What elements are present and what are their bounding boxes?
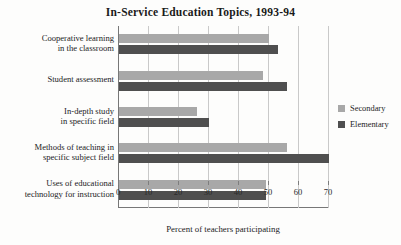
x-tick-mark — [118, 181, 119, 185]
x-tick-label: 10 — [144, 187, 153, 197]
legend-item: Elementary — [338, 120, 389, 129]
x-tick-mark — [268, 181, 269, 185]
bar-secondary — [119, 180, 266, 189]
x-tick-mark — [298, 181, 299, 185]
x-axis-title: Percent of teachers participating — [118, 224, 328, 234]
x-tick-label: 70 — [324, 187, 333, 197]
x-tick-mark — [238, 181, 239, 185]
bar-elementary — [119, 154, 329, 163]
chart-figure: In-Service Education Topics, 1993-94 Coo… — [0, 0, 401, 245]
category-label: Student assessment — [2, 74, 114, 85]
bar-elementary — [119, 45, 278, 54]
category-axis-labels: Cooperative learning in the classroomStu… — [0, 26, 114, 208]
chart-legend: SecondaryElementary — [338, 104, 389, 136]
x-tick-label: 30 — [204, 187, 213, 197]
x-tick-label: 60 — [294, 187, 303, 197]
category-label: In-depth study in specific field — [2, 106, 114, 127]
x-tick-mark — [328, 181, 329, 185]
legend-label: Secondary — [350, 104, 385, 113]
x-tick-label: 40 — [234, 187, 243, 197]
plot-area — [118, 26, 328, 208]
bar-elementary — [119, 82, 287, 91]
x-tick-label: 0 — [116, 187, 120, 197]
category-label: Uses of educational technology for instr… — [2, 178, 114, 199]
x-tick-label: 50 — [264, 187, 273, 197]
bar-secondary — [119, 71, 263, 80]
bar-secondary — [119, 107, 197, 116]
x-tick-mark — [148, 181, 149, 185]
x-tick-mark — [178, 181, 179, 185]
bar-secondary — [119, 34, 269, 43]
x-tick-mark — [208, 181, 209, 185]
chart-title: In-Service Education Topics, 1993-94 — [0, 6, 401, 18]
bar-elementary — [119, 118, 209, 127]
bar-elementary — [119, 191, 266, 200]
legend-item: Secondary — [338, 104, 389, 113]
category-label: Cooperative learning in the classroom — [2, 33, 114, 54]
bar-secondary — [119, 143, 287, 152]
legend-label: Elementary — [350, 120, 389, 129]
x-axis-line — [118, 207, 328, 208]
x-tick-label: 20 — [174, 187, 183, 197]
category-label: Methods of teaching in specific subject … — [2, 142, 114, 163]
legend-swatch-icon — [338, 105, 345, 112]
legend-swatch-icon — [338, 121, 345, 128]
